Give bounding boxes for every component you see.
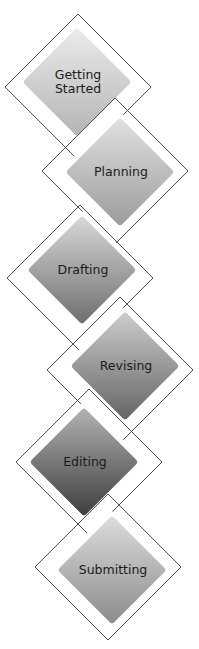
step-label: Submitting bbox=[79, 562, 148, 577]
writing-process-diagram: GettingStartedPlanningDraftingRevisingEd… bbox=[0, 0, 199, 649]
step-label: GettingStarted bbox=[55, 67, 102, 96]
step-label: Revising bbox=[100, 358, 153, 373]
step-label: Editing bbox=[63, 454, 107, 469]
step-label: Drafting bbox=[58, 262, 109, 277]
step-submitting: Submitting bbox=[35, 494, 181, 640]
step-label: Planning bbox=[94, 164, 148, 179]
